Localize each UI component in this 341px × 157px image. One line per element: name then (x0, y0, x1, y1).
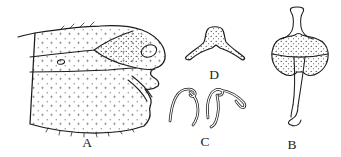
illustration-canvas: A D C B (0, 0, 341, 157)
right-hook-arch (207, 89, 222, 118)
panel-b-aedeagus-drawing: B (272, 7, 328, 152)
anterior-segment-line (18, 33, 35, 37)
panel-a-label: A (82, 135, 92, 150)
panel-d-sclerite-drawing: D (186, 27, 245, 82)
apical-hook (288, 105, 301, 126)
panel-a-abdomen-lateral-drawing: A (18, 22, 165, 150)
panel-d-label: D (209, 67, 219, 82)
panel-c-label: C (200, 134, 209, 149)
panel-c-hooks-drawing: C (170, 89, 245, 149)
basal-lobes-outline (272, 34, 328, 76)
panel-b-label: B (287, 137, 296, 152)
t-shaped-sclerite-outline (186, 27, 245, 60)
figure-plate: A D C B (0, 0, 341, 157)
